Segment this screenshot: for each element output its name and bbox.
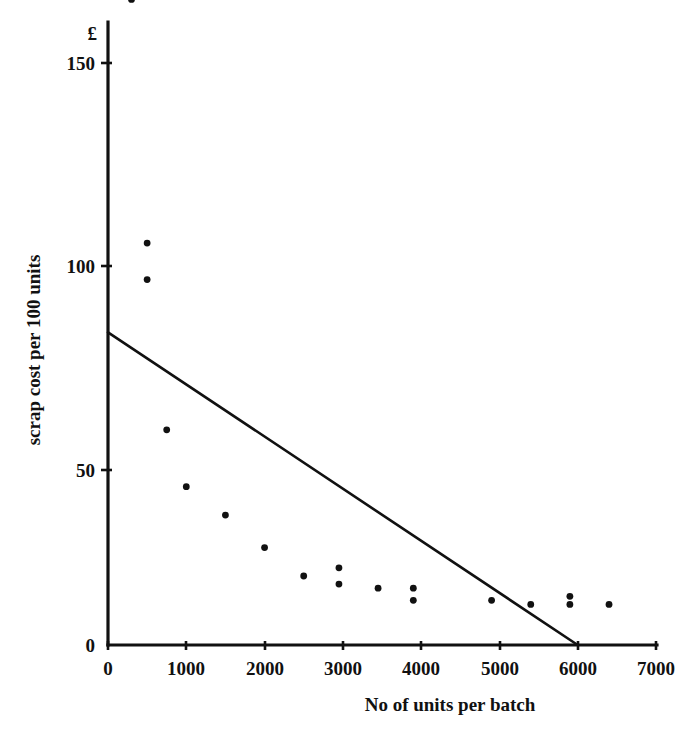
trend-line-segment (108, 332, 578, 645)
data-point (488, 597, 495, 604)
data-point (222, 512, 229, 519)
data-point (163, 426, 170, 433)
trend-line (108, 332, 578, 645)
data-point (183, 483, 190, 490)
data-point (144, 276, 151, 283)
data-point (144, 240, 151, 247)
data-point (300, 573, 307, 580)
x-tick-label-6000: 6000 (559, 658, 597, 679)
x-tick-label-1000: 1000 (167, 658, 205, 679)
y-tick-label-150: 150 (67, 53, 96, 74)
data-point (606, 601, 613, 608)
x-tick-label-4000: 4000 (402, 658, 440, 679)
scatter-chart-figure: £ 150 100 50 0 0 1000 2000 3000 4000 500… (0, 0, 682, 732)
y-tick-label-0: 0 (86, 635, 96, 656)
y-axis-currency-symbol: £ (88, 23, 98, 44)
x-tick-label-0: 0 (103, 658, 113, 679)
x-axis-title: No of units per batch (365, 694, 536, 715)
chart-canvas: £ 150 100 50 0 0 1000 2000 3000 4000 500… (0, 0, 682, 732)
x-tick-label-2000: 2000 (246, 658, 284, 679)
data-point (128, 0, 135, 3)
data-point (566, 601, 573, 608)
y-axis-title: scrap cost per 100 units (23, 255, 44, 446)
data-point-series (128, 0, 612, 608)
data-point (410, 585, 417, 592)
data-point (375, 585, 382, 592)
x-tick-label-7000: 7000 (637, 658, 675, 679)
data-point (336, 564, 343, 571)
data-point (336, 581, 343, 588)
data-point (566, 593, 573, 600)
data-point (261, 544, 268, 551)
data-point (527, 601, 534, 608)
x-tick-label-5000: 5000 (481, 658, 519, 679)
y-tick-label-50: 50 (76, 460, 95, 481)
y-tick-label-100: 100 (67, 256, 96, 277)
data-point (410, 597, 417, 604)
x-tick-label-3000: 3000 (324, 658, 362, 679)
